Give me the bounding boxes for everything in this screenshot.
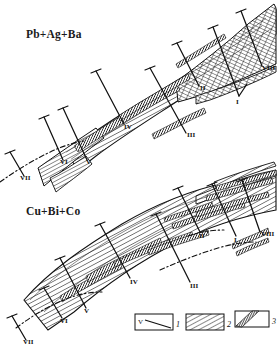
legend-section-letter: V [138, 318, 143, 326]
upper-label-I: I [236, 98, 239, 106]
lower-label-II: II [199, 232, 205, 240]
legend-box-2 [186, 314, 224, 330]
lower-label-III: III [190, 282, 198, 290]
legend-number-2: 2 [227, 320, 231, 329]
lower-label-VIII: VIII [261, 230, 275, 238]
upper-label-II: II [200, 84, 206, 92]
lower-label-V: V [84, 307, 89, 315]
legend: V 1 2 3 [135, 311, 276, 330]
panel-upper-title: Pb+Ag+Ba [26, 28, 82, 41]
panel-lower-title: Cu+Bi+Co [26, 205, 80, 217]
lower-label-VI: VI [60, 317, 68, 325]
upper-label-VI: VI [60, 158, 68, 166]
upper-label-III: III [187, 131, 195, 139]
legend-item-1: V 1 [135, 314, 180, 330]
upper-label-V: V [86, 158, 91, 166]
legend-number-1: 1 [176, 320, 180, 329]
ore-zoning-figure: Pb+Ag+Ba [0, 0, 277, 349]
upper-label-VII: VII [20, 174, 31, 182]
lower-label-IV: IV [130, 278, 138, 286]
legend-item-2: 2 [186, 314, 231, 330]
upper-label-VIII: VIII [262, 64, 276, 72]
legend-number-3: 3 [271, 317, 276, 326]
lower-label-VII: VII [23, 338, 34, 346]
lower-label-I: I [234, 236, 237, 244]
upper-label-IV: IV [124, 123, 132, 131]
